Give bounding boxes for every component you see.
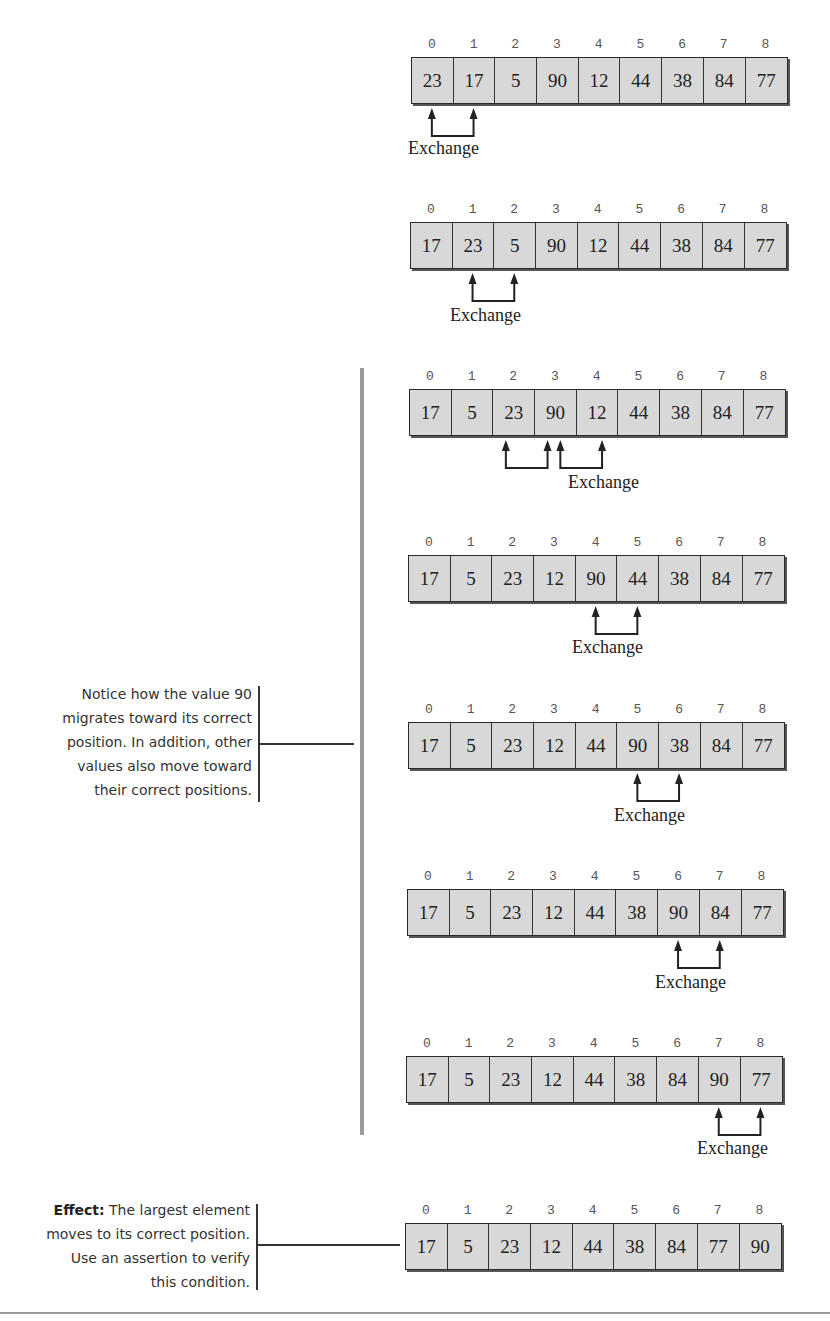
exchange-label: Exchange [697, 1138, 768, 1159]
exchange-arrows-icon [0, 0, 830, 1321]
